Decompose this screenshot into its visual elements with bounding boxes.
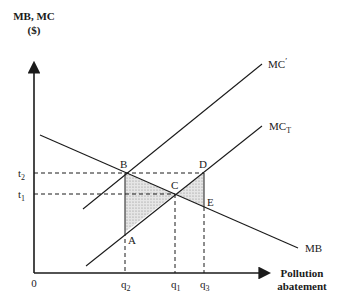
origin-label: 0 xyxy=(31,277,37,289)
label-mc-prime: MC′ xyxy=(268,56,287,70)
tick-q3: q3 xyxy=(200,278,210,293)
point-c: C xyxy=(171,179,178,191)
point-a: A xyxy=(128,234,136,246)
shaded-triangle-cde xyxy=(175,173,204,207)
shaded-triangle-abc xyxy=(125,173,175,232)
y-axis-label: MB, MC xyxy=(13,10,55,22)
y-axis-unit: ($) xyxy=(28,24,41,37)
point-d: D xyxy=(199,158,207,170)
x-axis-label-line1: Pollution xyxy=(281,267,324,279)
point-e: E xyxy=(207,196,214,208)
point-b: B xyxy=(120,158,127,170)
mb-curve xyxy=(40,135,298,248)
tick-q1: q1 xyxy=(171,278,181,293)
tick-t2: t2 xyxy=(18,167,25,182)
mc-t-curve xyxy=(86,126,262,266)
tick-q2: q2 xyxy=(121,278,131,293)
tick-t1: t1 xyxy=(18,188,25,203)
label-mb: MB xyxy=(305,242,322,254)
x-axis-label-line2: abatement xyxy=(277,280,327,292)
label-mc-t: MCT xyxy=(269,120,291,135)
pollution-abatement-diagram: MB, MC ($) Pollution abatement 0 t2 t1 q… xyxy=(0,0,342,303)
